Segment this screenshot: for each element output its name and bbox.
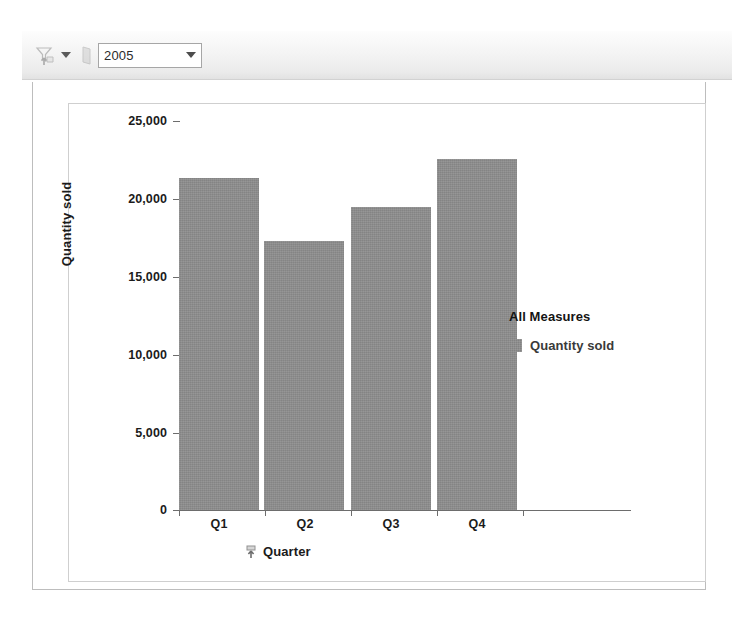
y-tick-label: 25,000	[95, 114, 167, 128]
y-tick-label: 0	[95, 503, 167, 517]
bar-q3[interactable]	[351, 207, 431, 510]
x-tick-mark	[351, 510, 352, 516]
legend-title: All Measures	[509, 309, 614, 324]
x-tick-mark	[265, 510, 266, 516]
x-tick-label-q1: Q1	[179, 517, 259, 531]
legend-swatch	[509, 339, 522, 352]
y-tick-mark	[173, 121, 180, 122]
y-tick-label: 15,000	[95, 270, 167, 284]
year-select-value: 2005	[99, 48, 181, 63]
y-tick-label: 10,000	[95, 348, 167, 362]
bar-chart: Quantity sold 25,000 20,000 15,000 10,00…	[69, 104, 707, 583]
chevron-down-icon[interactable]	[61, 52, 71, 58]
x-tick-label-q4: Q4	[437, 517, 517, 531]
funnel-filter-icon	[34, 44, 56, 66]
legend-item-label: Quantity sold	[530, 338, 614, 353]
chevron-down-icon[interactable]	[181, 52, 201, 58]
bar-q4[interactable]	[437, 159, 517, 510]
bar-q1[interactable]	[179, 178, 259, 510]
chart-legend: All Measures Quantity sold	[509, 309, 614, 353]
drill-up-icon[interactable]	[244, 545, 258, 559]
year-select[interactable]: 2005	[98, 43, 202, 68]
bar-q2[interactable]	[264, 241, 344, 510]
x-axis-line	[179, 510, 631, 511]
filter-button[interactable]	[32, 40, 73, 70]
x-tick-mark	[523, 510, 524, 516]
x-axis-title: Quarter	[263, 544, 311, 559]
y-tick-label: 5,000	[95, 426, 167, 440]
legend-item-quantity-sold[interactable]: Quantity sold	[509, 338, 614, 353]
x-tick-mark	[179, 510, 180, 516]
chart-toolbar: 2005	[22, 31, 732, 80]
x-tick-label-q2: Q2	[265, 517, 345, 531]
y-axis-title: Quantity sold	[59, 154, 74, 294]
chart-panel: Quantity sold 25,000 20,000 15,000 10,00…	[68, 103, 706, 582]
x-axis-title-group[interactable]: Quarter	[244, 544, 311, 559]
x-tick-mark	[437, 510, 438, 516]
y-tick-label: 20,000	[95, 192, 167, 206]
x-tick-label-q3: Q3	[351, 517, 431, 531]
page-separator-icon	[81, 45, 92, 66]
